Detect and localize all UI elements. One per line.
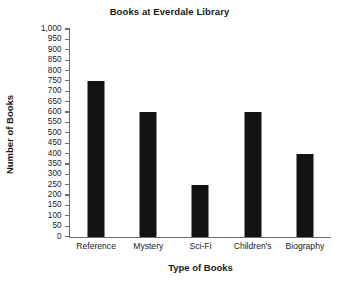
y-axis-tick-label: 150 [48,201,62,209]
y-axis-tick-label: 600 [48,108,62,116]
y-axis-tick [65,215,70,216]
x-axis-tick-label: Biography [279,240,331,252]
x-axis-tick-label: Mystery [122,240,174,252]
y-axis-tick [65,60,70,61]
y-axis-tick-label: 400 [48,149,62,157]
y-axis-tick-label: 950 [48,35,62,43]
bar-slot [122,29,174,237]
y-axis-tick [65,236,70,237]
y-axis-tick-label: 450 [48,139,62,147]
bar-series [70,29,331,237]
bar [192,185,209,237]
y-axis-tick [65,70,70,71]
y-axis-tick [65,101,70,102]
x-axis-tick-label: Sci-Fi [174,240,226,252]
y-axis-tick-label: 750 [48,77,62,85]
y-axis-tick [65,80,70,81]
x-axis-title: Type of Books [70,262,331,273]
y-axis-tick [65,174,70,175]
y-axis-tick [65,39,70,40]
y-axis-tick [65,205,70,206]
y-axis-tick-label: 200 [48,191,62,199]
y-axis-tick [65,122,70,123]
y-axis-tick [65,143,70,144]
y-axis-tick [65,49,70,50]
bar-chart: Books at Everdale Library Number of Book… [0,0,339,297]
y-axis-tick [65,163,70,164]
y-axis-tick [65,111,70,112]
y-axis-tick-label: 850 [48,56,62,64]
bar-slot [227,29,279,237]
y-axis-tick-label: 1,000 [41,25,62,33]
y-axis-tick [65,28,70,29]
bar [140,112,157,237]
y-axis-tick-label: 350 [48,160,62,168]
y-axis-tick-label: 800 [48,66,62,74]
y-axis-tick-label: 900 [48,46,62,54]
bar-slot [174,29,226,237]
x-axis-tick-label: Reference [70,240,122,252]
bar [244,112,261,237]
y-axis-tick-label: 100 [48,212,62,220]
y-axis-tick-label: 50 [52,222,61,230]
y-axis-tick [65,91,70,92]
bar-slot [70,29,122,237]
y-axis-tick [65,226,70,227]
y-axis-tick [65,153,70,154]
y-axis-tick-label: 550 [48,118,62,126]
y-axis-tick-label: 300 [48,170,62,178]
bar [88,81,105,237]
y-axis-tick-label: 700 [48,87,62,95]
y-axis-tick-label: 650 [48,98,62,106]
y-axis-tick-label: 250 [48,181,62,189]
bar-slot [279,29,331,237]
y-axis-tick [65,184,70,185]
y-axis-tick [65,194,70,195]
y-axis-tick-label: 500 [48,129,62,137]
x-axis-tick-label: Children's [227,240,279,252]
y-axis-tick [65,132,70,133]
x-axis-tick-labels: ReferenceMysterySci-FiChildren'sBiograph… [70,240,331,256]
y-axis-tick-label: 0 [57,232,62,240]
bar [296,154,313,237]
